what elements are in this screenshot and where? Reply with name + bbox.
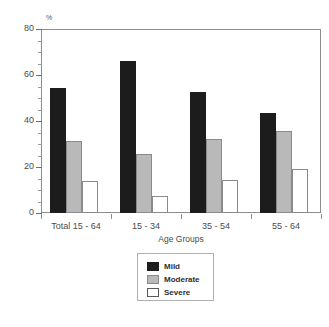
y-axis-minor-tick	[38, 202, 42, 203]
legend-swatch-icon	[147, 262, 159, 271]
y-axis-minor-tick	[38, 98, 42, 99]
x-axis-title: Age Groups	[41, 234, 321, 244]
legend-label: Severe	[164, 287, 190, 298]
legend-label: Mild	[164, 261, 180, 272]
y-axis-unit-label: %	[46, 14, 52, 21]
x-axis-tick	[181, 214, 182, 219]
y-axis-tick-label-wrap: 20	[10, 162, 34, 163]
x-axis-category-label: 15 - 34	[111, 221, 181, 232]
y-axis-tick-label: 80	[12, 24, 34, 33]
y-axis-major-tick	[36, 75, 42, 76]
legend-label: Moderate	[164, 274, 200, 285]
y-axis-tick-label: 0	[12, 208, 34, 217]
y-axis-minor-tick	[38, 41, 42, 42]
y-axis-major-tick	[36, 167, 42, 168]
y-axis-major-tick	[36, 121, 42, 122]
x-axis-tick	[321, 214, 322, 219]
bar-chart: % 020406080 Total 15 - 6415 - 3435 - 545…	[0, 0, 329, 327]
y-axis-minor-tick	[38, 156, 42, 157]
bar-mild-0	[50, 88, 66, 213]
y-axis-tick-label: 20	[12, 162, 34, 171]
y-axis-minor-tick	[38, 133, 42, 134]
legend-swatch-icon	[147, 275, 159, 284]
x-axis-tick	[41, 214, 42, 219]
y-axis-tick-label: 60	[12, 70, 34, 79]
x-axis-tick	[111, 214, 112, 219]
bar-severe-3	[292, 169, 308, 213]
y-axis-minor-tick	[38, 190, 42, 191]
bar-severe-2	[222, 180, 238, 213]
y-axis-tick-label-wrap: 60	[10, 70, 34, 71]
bar-moderate-3	[276, 131, 292, 213]
y-axis-tick-label-wrap: 0	[10, 208, 34, 209]
y-axis-minor-tick	[38, 179, 42, 180]
bar-moderate-0	[66, 141, 82, 213]
y-axis-minor-tick	[38, 87, 42, 88]
bar-mild-1	[120, 61, 136, 213]
bar-severe-1	[152, 196, 168, 213]
y-axis-tick-label: 40	[12, 116, 34, 125]
x-axis-category-label: Total 15 - 64	[41, 221, 111, 232]
y-axis-major-tick	[36, 29, 42, 30]
x-axis-category-label: 35 - 54	[181, 221, 251, 232]
y-axis-minor-tick	[38, 64, 42, 65]
bar-moderate-2	[206, 139, 222, 213]
chart-title-sliver	[0, 0, 329, 6]
y-axis-minor-tick	[38, 144, 42, 145]
x-axis-category-label: 55 - 64	[251, 221, 321, 232]
x-axis-tick	[251, 214, 252, 219]
legend-swatch-icon	[147, 288, 159, 297]
bar-moderate-1	[136, 154, 152, 213]
bar-severe-0	[82, 181, 98, 213]
legend: MildModerateSevere	[137, 253, 214, 301]
y-axis-minor-tick	[38, 110, 42, 111]
y-axis-tick-label-wrap: 80	[10, 24, 34, 25]
bar-mild-2	[190, 92, 206, 213]
y-axis-minor-tick	[38, 52, 42, 53]
bar-mild-3	[260, 113, 276, 213]
y-axis-tick-label-wrap: 40	[10, 116, 34, 117]
